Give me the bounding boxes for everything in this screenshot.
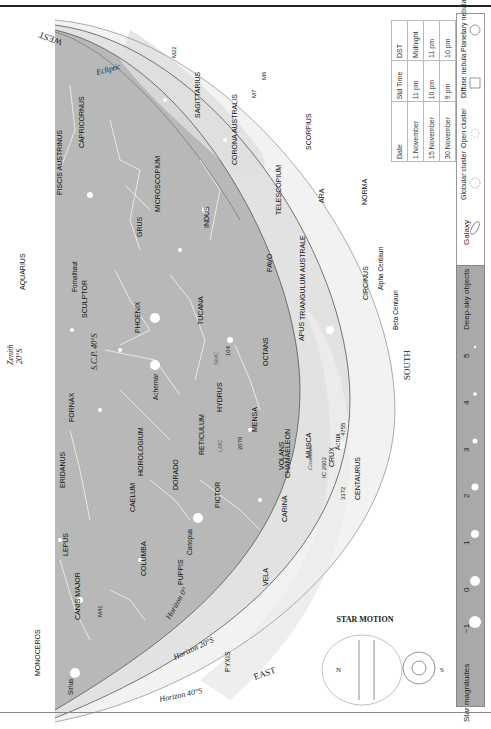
label-scorpius: SCORPIUS bbox=[305, 113, 312, 150]
legend-mag-2: 2 bbox=[462, 494, 471, 498]
label-phoenix: PHOENIX bbox=[134, 301, 141, 333]
label-scp: S.C.P. 40°S bbox=[90, 334, 99, 370]
legend-galaxy: Galaxy bbox=[462, 220, 471, 245]
label-pavo: PAVO bbox=[266, 253, 273, 272]
label-circinus: CIRCINUS bbox=[362, 266, 369, 300]
label-fomalhaut: Fomalhaut bbox=[71, 261, 78, 292]
label-canis-major: CANIS MAJOR bbox=[74, 572, 81, 620]
label-dorado: DORADO bbox=[172, 459, 179, 490]
legend-mag-4: 4 bbox=[462, 401, 471, 405]
star-motion-n: N bbox=[336, 666, 341, 674]
label-volans: VOLANS bbox=[278, 441, 285, 470]
label-alpha-centauri: Alpha Centauri bbox=[377, 247, 385, 290]
legend-open: Open cluster bbox=[460, 108, 467, 148]
label-pyxis: PYXIS bbox=[224, 651, 231, 672]
dates-cell: Midnight bbox=[408, 21, 424, 61]
label-corona-australis: CORONA AUSTRALIS bbox=[231, 94, 238, 165]
label-smc: SMC bbox=[213, 351, 219, 365]
label-m22: M22 bbox=[171, 46, 177, 58]
label-triangulum-australe: TRIANGULUM AUSTRALE bbox=[299, 235, 306, 320]
label-4755: 4755 bbox=[340, 422, 346, 436]
label-caelum: CAELUM bbox=[129, 483, 136, 512]
legend-mag-neg1: −1 bbox=[462, 624, 471, 633]
star-motion-diagram: STAR MOTION N S bbox=[322, 615, 444, 705]
label-sirius: Sirius bbox=[67, 678, 74, 695]
label-m41: M41 bbox=[97, 605, 103, 617]
label-centaurus: CENTAURUS bbox=[354, 457, 361, 500]
legend-magnitudes bbox=[456, 265, 485, 707]
label-horologium: HOROLOGIUM bbox=[137, 427, 144, 476]
dates-cell: 11 pm bbox=[424, 21, 440, 61]
label-fornax: FORNAX bbox=[68, 393, 75, 423]
legend-mag-5: 5 bbox=[462, 354, 471, 358]
label-sculptor: SCULPTOR bbox=[81, 280, 88, 318]
dates-cell: 11 pm bbox=[408, 60, 424, 101]
label-sagittarius: SAGITTARIUS bbox=[194, 72, 201, 118]
label-octans: OCTANS bbox=[262, 337, 269, 366]
label-zenith: Zenith bbox=[6, 345, 15, 365]
label-monoceros: MONOCEROS bbox=[34, 629, 41, 676]
label-lepus: LEPUS bbox=[62, 533, 69, 556]
label-apus: APUS bbox=[298, 322, 305, 341]
label-canopus: Canopus bbox=[186, 528, 194, 555]
dates-cell: 10 pm bbox=[440, 21, 456, 61]
star-motion-title: STAR MOTION bbox=[337, 615, 394, 624]
page-bottom-rule bbox=[0, 712, 491, 713]
label-m7: M7 bbox=[251, 89, 257, 98]
dates-cell: 10 pm bbox=[424, 60, 440, 101]
dates-header-std: Std Time bbox=[392, 60, 408, 101]
legend-planetary: Planetary nebula bbox=[460, 0, 467, 52]
label-pictor: PICTOR bbox=[214, 482, 221, 508]
label-lmc: LMC bbox=[217, 439, 223, 452]
legend-deep-sky-title: Deep-sky objects bbox=[462, 269, 471, 330]
label-microscopium: MICROSCOPIUM bbox=[154, 156, 161, 212]
dates-header-date: Date bbox=[392, 102, 408, 162]
label-hydrus: HYDRUS bbox=[216, 382, 223, 412]
label-m6: M6 bbox=[261, 71, 267, 80]
legend-mag-3: 3 bbox=[462, 448, 471, 452]
legend-diffuse: Diffuse nebula bbox=[460, 53, 467, 98]
label-achernar: Achernar bbox=[152, 373, 159, 400]
label-ic2602: IC 2602 bbox=[321, 456, 327, 478]
label-horizon-40: Horizon 40°S bbox=[158, 686, 203, 704]
legend-mag-1: 1 bbox=[462, 541, 471, 545]
label-tucana: TUCANA bbox=[197, 296, 204, 325]
label-coalsack: Coalsack bbox=[307, 444, 313, 470]
label-beta-centauri: Beta Centauri bbox=[392, 290, 399, 330]
star-motion-s: S bbox=[440, 666, 444, 674]
dates-table: Date Std Time DST 1 November 11 pm Midni… bbox=[391, 20, 451, 162]
label-vela: VELA bbox=[262, 568, 269, 586]
label-telescopium: TELESCOPIUM bbox=[275, 165, 282, 215]
label-2070: 2070 bbox=[237, 436, 243, 450]
label-reticulum: RETICULUM bbox=[198, 414, 205, 455]
legend-mag-title: Star magnitudes bbox=[462, 664, 471, 722]
label-columba: COLUMBA bbox=[140, 541, 147, 576]
dates-cell: 15 November bbox=[424, 102, 440, 162]
label-norma: NORMA bbox=[361, 179, 368, 205]
label-aquarius: AQUARIUS bbox=[19, 253, 27, 290]
dates-cell: 1 November bbox=[408, 102, 424, 162]
label-grus: GRUS bbox=[136, 216, 143, 237]
label-carina: CARINA bbox=[281, 495, 288, 522]
legend-mag-0: 0 bbox=[462, 588, 471, 592]
label-3372: 3372 bbox=[340, 486, 346, 500]
label-104: 104 bbox=[225, 345, 231, 356]
dates-cell: 9 pm bbox=[440, 60, 456, 101]
label-puppis: PUPPIS bbox=[177, 559, 184, 585]
label-south: SOUTH bbox=[402, 349, 412, 380]
label-indus: INDUS bbox=[203, 206, 210, 228]
legend-globular: Globular cluster bbox=[460, 151, 467, 200]
label-zenith-lat: 20°S bbox=[15, 349, 24, 364]
label-mensa: MENSA bbox=[251, 407, 258, 432]
dates-header-dst: DST bbox=[392, 21, 408, 61]
label-piscis-austrinus: PISCIS AUSTRINUS bbox=[56, 130, 63, 195]
label-eridanus: ERIDANUS bbox=[59, 451, 66, 488]
label-ara: ARA bbox=[318, 188, 325, 203]
dates-cell: 30 November bbox=[440, 102, 456, 162]
label-capricornus: CAPRICORNUS bbox=[78, 96, 85, 148]
label-chamaeleon: CHAMAELEON bbox=[284, 429, 291, 478]
